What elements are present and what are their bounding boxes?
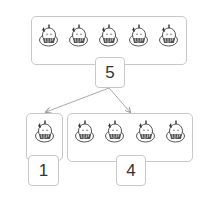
creature-icon	[68, 23, 89, 47]
part-1-number: 1	[28, 155, 59, 186]
creature-icon	[74, 119, 95, 143]
creature-icon	[38, 23, 59, 47]
creature-icon	[165, 119, 186, 143]
creature-icon	[158, 23, 179, 47]
creature-icon	[34, 119, 55, 143]
creature-icon	[135, 119, 156, 143]
creature-icon	[128, 23, 149, 47]
arrow-left	[46, 88, 109, 112]
part-2-icons	[74, 119, 186, 143]
arrow-right	[109, 88, 130, 112]
whole-icons	[38, 23, 179, 47]
whole-number: 5	[95, 57, 125, 88]
part-2-number: 4	[116, 155, 146, 186]
part-1-icons	[34, 119, 55, 143]
creature-icon	[104, 119, 125, 143]
creature-icon	[98, 23, 119, 47]
